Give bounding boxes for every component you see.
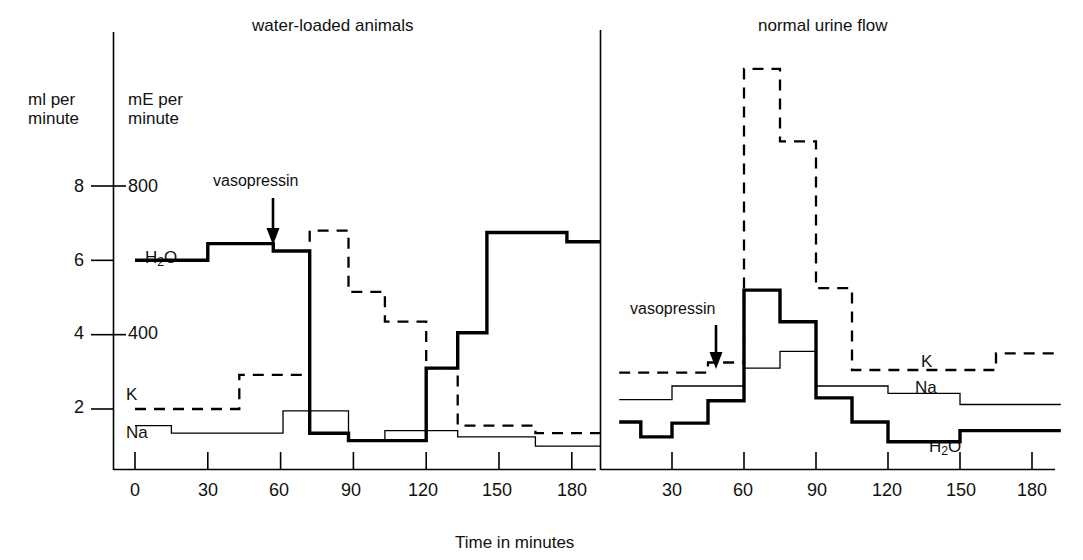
plot-surface xyxy=(0,0,1083,560)
vasopressin-arrow-panel1 xyxy=(267,198,280,245)
series-path-k-panel2 xyxy=(619,69,1061,373)
ticks-layer xyxy=(91,186,1032,469)
panel-1-series xyxy=(135,231,601,447)
axes-layer xyxy=(114,30,1056,470)
panel-2-series xyxy=(619,69,1061,442)
series-layer xyxy=(135,69,1061,446)
series-path-h2o-panel1 xyxy=(135,233,601,441)
figure-canvas: ml per minute mE per minute water-loaded… xyxy=(0,0,1083,560)
annotations-layer xyxy=(267,198,723,369)
series-path-h2o-panel2 xyxy=(619,290,1061,442)
